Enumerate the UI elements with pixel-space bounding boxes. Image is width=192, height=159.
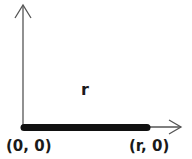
- origin-label: (0, 0): [6, 139, 52, 154]
- segment-label: r: [81, 82, 89, 98]
- coordinate-diagram: [0, 0, 192, 159]
- endpoint-label: (r, 0): [129, 139, 169, 154]
- y-axis: [15, 5, 31, 127]
